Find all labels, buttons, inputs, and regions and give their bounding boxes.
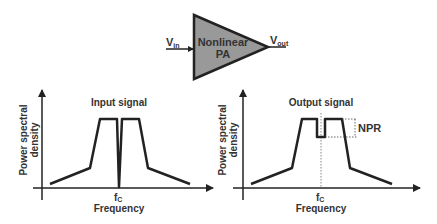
y-axis-label-2: density [228,122,239,157]
vin-label: Vin [166,36,180,49]
input-chart: Input signal Frequency fC Power spectral… [18,90,213,214]
fc-tick-label: fC [114,192,122,203]
amp-label-1: Nonlinear [198,36,249,48]
y-axis-label-2: density [29,122,40,157]
y-axis-label-1: Power spectral [18,104,29,175]
chart-title: Output signal [289,97,354,108]
vout-label: Vout [270,34,289,47]
chart-title: Input signal [91,97,147,108]
y-axis-label-1: Power spectral [217,104,228,175]
x-axis-label: Frequency [296,203,347,214]
fc-tick-label: fC [316,192,324,203]
amp-label-2: PA [216,48,231,60]
output-chart: NPR Output signal Frequency fC Power spe… [217,90,420,214]
amplifier-block: Vin Vout Nonlinear PA [166,15,289,79]
x-axis-label: Frequency [94,203,145,214]
npr-label: NPR [358,122,381,134]
npr-diagram: Vin Vout Nonlinear PA Input signal Frequ… [0,0,437,224]
input-psd-curve [50,119,190,187]
